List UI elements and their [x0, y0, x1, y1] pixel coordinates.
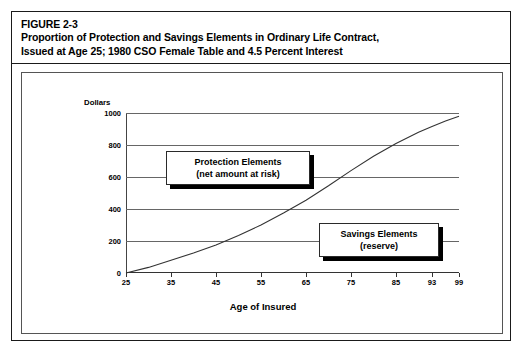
figure-number-label: FIGURE 2-3: [21, 18, 510, 31]
y-axis-tick-label: 200: [108, 237, 121, 246]
callout-protection-line-2: (net amount at risk): [196, 168, 280, 180]
chart-frame: Dollars 02004006008001000 25354555657585…: [21, 72, 503, 334]
callout-protection-line-1: Protection Elements: [194, 156, 281, 168]
figure-header: FIGURE 2-3 Proportion of Protection and …: [12, 12, 510, 64]
callout-savings-line-2: (reserve): [360, 240, 398, 252]
y-axis-tick-label: 800: [108, 141, 121, 150]
x-axis-tick-mark: [351, 273, 352, 277]
x-axis-tick-mark: [171, 273, 172, 277]
y-axis-tick-label: 400: [108, 205, 121, 214]
figure-title-line-2: Issued at Age 25; 1980 CSO Female Table …: [21, 45, 510, 58]
x-axis-tick-mark: [261, 273, 262, 277]
x-axis-tick-mark: [306, 273, 307, 277]
x-axis-tick-label: 99: [455, 278, 463, 287]
x-axis-tick-mark: [459, 273, 460, 277]
x-axis-title: Age of Insured: [22, 301, 504, 312]
x-axis-tick-mark: [396, 273, 397, 277]
x-axis-tick-label: 85: [392, 278, 400, 287]
x-axis-tick-label: 55: [257, 278, 265, 287]
x-axis-tick-label: 45: [212, 278, 220, 287]
x-axis-tick-label: 25: [122, 278, 130, 287]
x-axis-tick-mark: [126, 273, 127, 277]
x-axis-tick-label: 93: [428, 278, 436, 287]
x-axis-tick-label: 35: [167, 278, 175, 287]
y-axis-tick-label: 0: [117, 269, 121, 278]
x-axis-tick-mark: [216, 273, 217, 277]
callout-protection-elements: Protection Elements (net amount at risk): [166, 151, 310, 185]
y-axis-title: Dollars: [84, 98, 110, 107]
x-axis-tick-label: 75: [347, 278, 355, 287]
x-axis-tick-mark: [432, 273, 433, 277]
callout-savings-elements: Savings Elements (reserve): [319, 223, 439, 257]
y-axis-tick-label: 1000: [104, 109, 121, 118]
y-axis-tick-label: 600: [108, 173, 121, 182]
figure-title-line-1: Proportion of Protection and Savings Ele…: [21, 31, 510, 44]
x-axis-tick-label: 65: [302, 278, 310, 287]
figure-container: FIGURE 2-3 Proportion of Protection and …: [11, 11, 511, 341]
callout-savings-line-1: Savings Elements: [340, 228, 417, 240]
